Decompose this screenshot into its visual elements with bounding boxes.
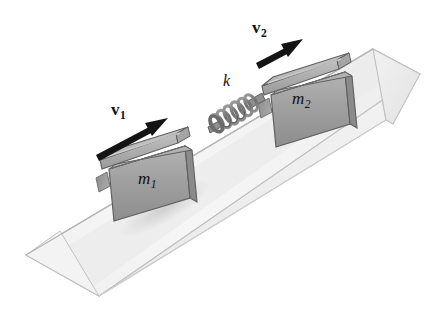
label-v2-symbol: v — [252, 18, 261, 37]
label-m2: m2 — [292, 90, 311, 110]
label-m1-subscript: 1 — [151, 178, 157, 191]
label-k-symbol: k — [223, 72, 230, 89]
arrow-v2-shaft — [256, 47, 289, 69]
label-m1: m1 — [138, 170, 157, 190]
physics-diagram: v1 v2 m1 m2 k — [0, 0, 444, 313]
label-v2-subscript: 2 — [261, 27, 267, 40]
label-m1-symbol: m — [138, 169, 150, 188]
label-v1-subscript: 1 — [120, 109, 126, 122]
label-m2-symbol: m — [292, 89, 304, 108]
diagram-canvas — [0, 0, 444, 313]
label-k: k — [223, 73, 230, 89]
arrow-v2 — [256, 39, 303, 69]
label-v1-symbol: v — [111, 100, 120, 119]
block-m1-cap-end — [176, 127, 190, 143]
label-v2: v2 — [252, 19, 267, 39]
block-m1-foot — [96, 172, 110, 192]
label-m2-subscript: 2 — [305, 98, 311, 111]
label-v1: v1 — [111, 101, 126, 121]
